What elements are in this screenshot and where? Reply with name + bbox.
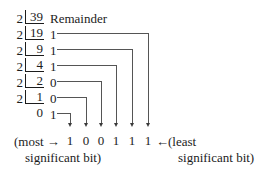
remainder-row-6: 1 — [50, 108, 58, 121]
most-significant-bit-label-line2: significant bit) — [25, 150, 101, 165]
connector-hline-row-4 — [57, 81, 101, 82]
remainder-row-5: 0 — [50, 92, 58, 105]
dividend-row-3: 4 — [25, 58, 44, 72]
connector-vline-row-3 — [116, 65, 117, 125]
connector-arrowhead-row-1 — [146, 123, 150, 127]
connector-hline-row-1 — [57, 33, 148, 34]
binary-conversion-figure: Remainder 2 39 2 19 1 2 9 1 2 4 1 2 2 0 … — [0, 0, 261, 169]
connector-hline-row-3 — [57, 65, 116, 66]
connector-arrowhead-row-5 — [84, 123, 88, 127]
connector-hline-row-6 — [57, 113, 70, 114]
connector-vline-row-1 — [148, 33, 149, 125]
remainder-row-3: 1 — [50, 60, 58, 73]
connector-arrowhead-row-6 — [68, 123, 72, 127]
divisor-row-3: 2 — [13, 60, 23, 73]
connector-arrowhead-row-3 — [114, 123, 118, 127]
result-bit-2: 0 — [96, 134, 106, 147]
least-significant-bit-label-line1: (least — [168, 134, 196, 149]
result-bit-4: 1 — [127, 134, 137, 147]
dividend-row-2: 9 — [25, 42, 44, 56]
result-bit-0: 1 — [65, 134, 75, 147]
most-significant-bit-label-line1: (most → — [14, 134, 60, 149]
connector-hline-row-2 — [57, 49, 132, 50]
divisor-row-0: 2 — [13, 12, 23, 25]
connector-arrowhead-row-4 — [99, 123, 103, 127]
connector-vline-row-5 — [86, 97, 87, 125]
divisor-row-2: 2 — [13, 44, 23, 57]
dividend-row-0: 39 — [25, 10, 44, 24]
result-bit-3: 1 — [111, 134, 121, 147]
result-bit-1: 0 — [81, 134, 91, 147]
remainder-row-1: 1 — [50, 28, 58, 41]
connector-hline-row-5 — [57, 97, 86, 98]
dividend-row-6: 0 — [25, 106, 44, 120]
connector-arrowhead-row-2 — [130, 123, 134, 127]
result-bit-5: 1 — [143, 134, 153, 147]
divisor-row-4: 2 — [13, 76, 23, 89]
connector-vline-row-4 — [101, 81, 102, 125]
divisor-row-5: 2 — [13, 92, 23, 105]
dividend-row-1: 19 — [25, 26, 44, 40]
remainder-row-4: 0 — [50, 76, 58, 89]
remainder-column-header: Remainder — [50, 12, 107, 25]
dividend-row-4: 2 — [25, 74, 44, 88]
divisor-row-1: 2 — [13, 28, 23, 41]
dividend-row-5: 1 — [25, 90, 44, 104]
remainder-row-2: 1 — [50, 44, 58, 57]
connector-vline-row-2 — [132, 49, 133, 125]
least-significant-bit-label-line2: significant bit) — [178, 150, 254, 165]
